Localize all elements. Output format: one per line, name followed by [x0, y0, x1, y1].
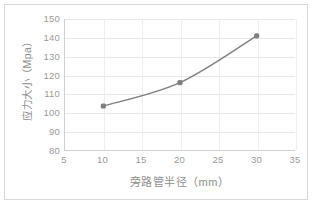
data-point-marker: [254, 33, 259, 38]
x-tick-label: 30: [240, 154, 274, 165]
y-tick-label: 140: [20, 33, 60, 43]
y-tick-label: 90: [20, 127, 60, 137]
y-tick-label: 100: [20, 108, 60, 118]
y-tick-label: 150: [20, 14, 60, 24]
x-tick-label: 20: [163, 154, 197, 165]
x-tick-label: 5: [47, 154, 81, 165]
x-tick-label: 15: [124, 154, 158, 165]
chart-screenshot: 应力大小（Mpa） 150 140 130 120 110 100 90 80: [0, 0, 313, 205]
y-tick-label: 130: [20, 52, 60, 62]
plot-area: [64, 19, 295, 151]
series-markers: [101, 33, 260, 108]
y-tick-label: 120: [20, 71, 60, 81]
x-tick-label: 10: [86, 154, 120, 165]
chart-frame: 应力大小（Mpa） 150 140 130 120 110 100 90 80: [4, 4, 308, 200]
series-line: [103, 36, 256, 106]
data-point-marker: [177, 80, 182, 85]
data-point-marker: [101, 103, 106, 108]
y-tick-label: 110: [20, 89, 60, 99]
x-tick-label: 35: [278, 154, 312, 165]
x-tick-label: 25: [201, 154, 235, 165]
gridline-vertical: [296, 19, 297, 150]
y-axis-tick-labels: 150 140 130 120 110 100 90 80: [19, 19, 60, 151]
series-plot: [65, 19, 295, 150]
x-axis-title: 旁路管半径（mm）: [64, 173, 295, 189]
x-axis-tick-labels: 5 10 15 20 25 30 35: [64, 154, 295, 167]
